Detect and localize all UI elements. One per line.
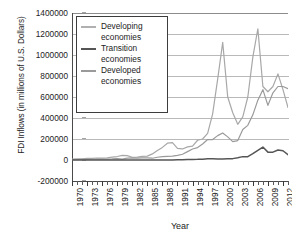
legend-label-developing: Developing economies [101,21,143,42]
y-tick-label: 400000 [16,113,68,123]
x-tick-major [208,181,209,186]
x-tick-minor [122,181,123,185]
x-tick-major [87,181,88,186]
x-tick-major [253,181,254,186]
x-tick-minor [288,181,289,185]
x-tick-label: 1985 [151,188,160,206]
x-tick-minor [157,181,158,185]
legend-swatch-developed [81,70,96,72]
x-tick-minor [127,181,128,185]
x-tick-minor [203,181,204,185]
x-tick-minor [213,181,214,185]
x-tick-minor [233,181,234,185]
y-tick-label: 1400000 [16,8,68,18]
x-axis-line [72,181,288,182]
x-tick-label: 1982 [136,188,145,206]
x-axis-title: Year [72,221,288,231]
x-tick-major [193,181,194,186]
x-tick-label: 1988 [166,188,175,206]
x-tick-major [72,181,73,186]
legend-label-developed: Developed economies [101,65,141,86]
x-tick-label: 1997 [211,188,220,206]
x-tick-major [238,181,239,186]
x-tick-minor [77,181,78,185]
x-tick-minor [198,181,199,185]
x-tick-major [283,181,284,186]
x-tick-label: 2003 [241,188,250,206]
x-tick-major [223,181,224,186]
x-tick-minor [258,181,259,185]
y-tick-label: -200000 [16,176,68,186]
x-tick-major [102,181,103,186]
x-tick-minor [167,181,168,185]
x-tick-minor [218,181,219,185]
x-tick-minor [82,181,83,185]
x-tick-minor [142,181,143,185]
legend-item-developed: Developed economies [77,65,167,86]
x-tick-minor [228,181,229,185]
x-tick-label: 1976 [106,188,115,206]
legend-swatch-developing [81,26,96,28]
x-tick-minor [273,181,274,185]
x-tick-label: 2009 [271,188,280,206]
x-tick-major [268,181,269,186]
fdi-inflows-line-chart: FDI Inflows (in millions of U.S. Dollars… [0,0,292,237]
y-tick-label: 1200000 [16,29,68,39]
y-tick-label: 800000 [16,71,68,81]
y-axis-tick-labels: -200000020000040000060000080000010000001… [14,0,68,237]
x-tick-major [147,181,148,186]
legend-swatch-transition [81,48,96,50]
x-tick-minor [278,181,279,185]
legend-label-developing-line1: Developing [101,21,143,31]
legend-label-transition-line2: economies [101,54,141,64]
x-tick-minor [137,181,138,185]
x-tick-minor [263,181,264,185]
x-tick-minor [183,181,184,185]
x-tick-minor [248,181,249,185]
x-tick-minor [152,181,153,185]
legend-label-transition-line1: Transition [101,43,137,53]
x-tick-label: 2012 [286,188,292,206]
x-tick-minor [92,181,93,185]
x-tick-label: 1979 [121,188,130,206]
legend-label-transition: Transition economies [101,43,141,64]
legend-item-developing: Developing economies [77,21,167,42]
legend-label-developed-line2: economies [101,76,141,86]
x-tick-major [132,181,133,186]
x-tick-label: 1973 [91,188,100,206]
x-tick-label: 2006 [256,188,265,206]
legend-label-developing-line2: economies [101,32,141,42]
y-tick-label: 200000 [16,134,68,144]
y-tick-label: 0 [16,155,68,165]
legend-label-developed-line1: Developed [101,65,141,75]
x-tick-minor [97,181,98,185]
legend-item-transition: Transition economies [77,43,167,64]
x-tick-label: 1994 [196,188,205,206]
x-tick-minor [112,181,113,185]
x-tick-label: 1970 [76,188,85,206]
x-tick-major [162,181,163,186]
x-tick-major [117,181,118,186]
y-tick-label: 1000000 [16,50,68,60]
x-tick-minor [107,181,108,185]
x-tick-label: 1991 [181,188,190,206]
x-tick-minor [243,181,244,185]
x-tick-major [177,181,178,186]
y-tick-label: 600000 [16,92,68,102]
x-tick-minor [172,181,173,185]
chart-legend: Developing economies Transition economie… [76,16,168,113]
x-tick-label: 2000 [226,188,235,206]
x-tick-minor [188,181,189,185]
